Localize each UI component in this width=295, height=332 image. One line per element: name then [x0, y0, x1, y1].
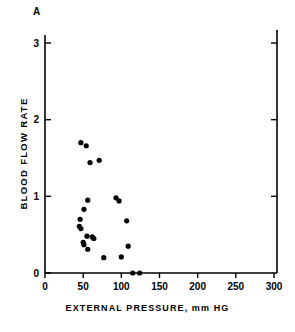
- y-tick-label: 0: [33, 268, 39, 279]
- data-point: [91, 236, 96, 241]
- data-point: [101, 255, 106, 260]
- data-point: [81, 242, 86, 247]
- y-tick-label: 1: [33, 191, 39, 202]
- data-point: [84, 143, 89, 148]
- data-point: [126, 244, 131, 249]
- y-tick-label: 2: [33, 114, 39, 125]
- x-tick-label: 250: [227, 281, 244, 292]
- x-tick-label: 100: [113, 281, 130, 292]
- data-point: [81, 207, 86, 212]
- x-tick-label: 0: [42, 281, 48, 292]
- data-point: [119, 254, 124, 259]
- figure-panel-a: A BLOOD FLOW RATE EXTERNAL PRESSURE, mm …: [0, 0, 295, 332]
- x-tick-label: 300: [266, 281, 283, 292]
- data-point: [85, 198, 90, 203]
- data-point: [78, 217, 83, 222]
- y-tick-label: 3: [33, 38, 39, 49]
- data-point: [116, 198, 121, 203]
- data-point: [124, 218, 129, 223]
- x-tick-label: 150: [151, 281, 168, 292]
- data-point: [137, 270, 142, 275]
- data-point: [78, 140, 83, 145]
- data-point: [78, 226, 83, 231]
- data-point: [84, 234, 89, 239]
- x-tick-label: 50: [78, 281, 90, 292]
- data-point: [85, 247, 90, 252]
- data-point: [97, 158, 102, 163]
- x-tick-label: 200: [189, 281, 206, 292]
- data-point: [130, 270, 135, 275]
- scatter-plot: 0501001502002503000123: [0, 0, 295, 332]
- data-point: [87, 160, 92, 165]
